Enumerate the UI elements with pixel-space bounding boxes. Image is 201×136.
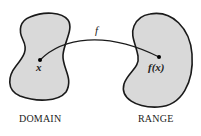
range-point-label: f(x) (148, 61, 165, 73)
function-label: f (95, 24, 98, 36)
domain-caption: DOMAIN (19, 113, 61, 124)
range-caption: RANGE (138, 113, 173, 124)
function-mapping-diagram: f x f(x) DOMAIN RANGE (0, 0, 201, 136)
domain-point-label: x (36, 61, 42, 73)
domain-set-shape (10, 13, 70, 100)
range-point (157, 55, 161, 59)
